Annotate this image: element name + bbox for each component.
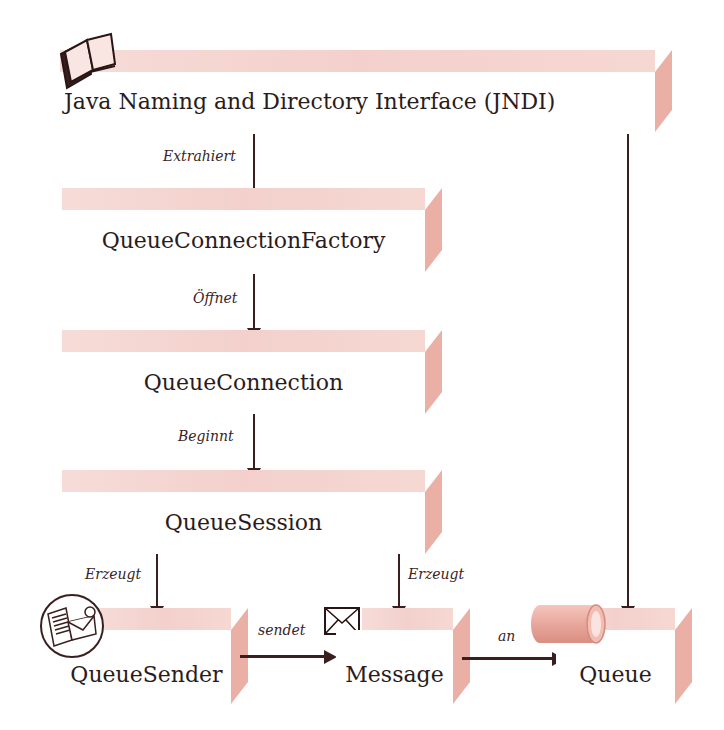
arrow-erzeugt-sender <box>156 554 158 608</box>
book-icon <box>55 30 125 90</box>
edge-label-oeffnet: Öffnet <box>193 290 237 306</box>
jndi-face: Java Naming and Directory Interface (JND… <box>60 72 655 130</box>
arrow-erzeugt-message <box>398 554 400 608</box>
edge-label-extrahiert: Extrahiert <box>163 148 236 164</box>
queue-side <box>675 608 692 704</box>
qs-label: QueueSession <box>165 510 323 535</box>
message-side <box>453 608 470 704</box>
qcf-band <box>62 188 425 210</box>
jndi-band <box>60 50 655 72</box>
qcf-face: QueueConnectionFactory <box>62 210 425 270</box>
arrow-oeffnet <box>253 274 255 328</box>
message-band <box>362 608 453 630</box>
edge-label-erzeugt-message: Erzeugt <box>408 566 464 582</box>
qcf-node: QueueConnectionFactory <box>62 188 442 272</box>
arrow-sendet <box>240 655 326 658</box>
edge-label-an: an <box>498 628 515 644</box>
qs-face: QueueSession <box>62 492 425 552</box>
sender-label: QueueSender <box>70 662 222 687</box>
jndi-label: Java Naming and Directory Interface (JND… <box>64 89 555 114</box>
arrow-jndi-queue <box>627 134 629 608</box>
edge-label-erzeugt-sender: Erzeugt <box>85 566 141 582</box>
message-label: Message <box>345 662 443 687</box>
mail-sender-icon <box>38 592 106 660</box>
qcf-side <box>425 188 442 272</box>
qc-face: QueueConnection <box>62 352 425 412</box>
qcf-label: QueueConnectionFactory <box>102 228 386 253</box>
cylinder-icon <box>532 603 606 645</box>
qs-node: QueueSession <box>62 470 442 554</box>
qc-node: QueueConnection <box>62 330 442 414</box>
arrow-beginnt <box>253 414 255 470</box>
jndi-side <box>655 50 672 132</box>
edge-label-sendet: sendet <box>258 622 305 638</box>
arrow-extrahiert <box>253 134 255 188</box>
qc-label: QueueConnection <box>144 370 343 395</box>
message-node: Message <box>336 608 470 704</box>
qs-band <box>62 470 425 492</box>
message-face: Message <box>336 630 453 700</box>
qc-side <box>425 330 442 414</box>
arrow-an <box>462 657 554 660</box>
qc-band <box>62 330 425 352</box>
edge-label-beginnt: Beginnt <box>178 428 234 444</box>
sender-band <box>95 608 231 630</box>
queue-label: Queue <box>579 662 651 687</box>
qs-side <box>425 470 442 554</box>
jndi-node: Java Naming and Directory Interface (JND… <box>60 50 672 132</box>
